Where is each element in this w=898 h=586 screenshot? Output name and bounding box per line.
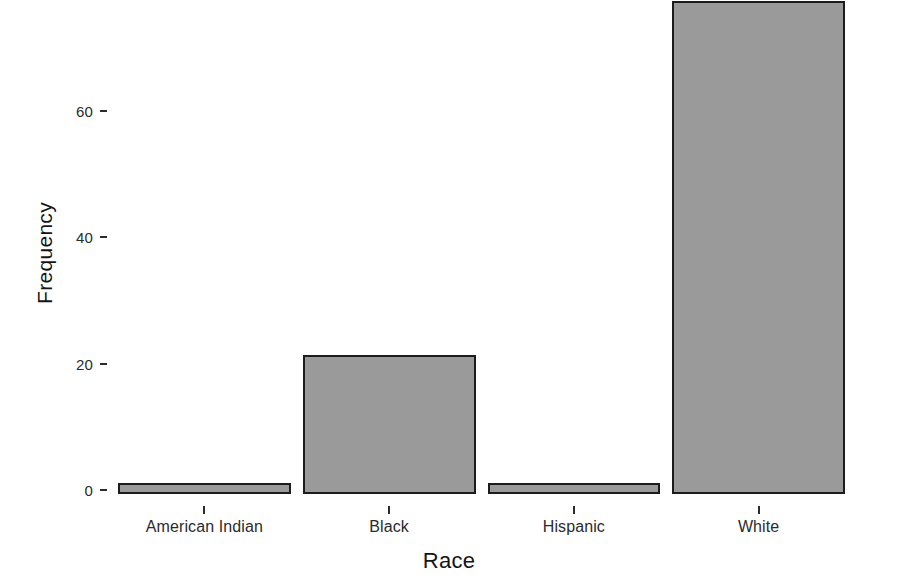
y-axis-title: Frequency bbox=[33, 202, 57, 304]
plot-area bbox=[118, 10, 857, 494]
y-tick-label: 20 bbox=[33, 355, 93, 372]
y-tick-mark bbox=[100, 110, 107, 112]
y-tick-label: 40 bbox=[33, 229, 93, 246]
x-tick-label: American Indian bbox=[146, 518, 263, 536]
x-tick-label: Hispanic bbox=[543, 518, 605, 536]
bar-chart-figure: Frequency 0204060 American IndianBlackHi… bbox=[0, 0, 898, 586]
y-tick-mark bbox=[100, 236, 107, 238]
y-tick-label: 0 bbox=[33, 482, 93, 499]
y-tick-label: 60 bbox=[33, 102, 93, 119]
x-tick-label: White bbox=[738, 518, 779, 536]
bar bbox=[303, 355, 476, 494]
x-axis-title: Race bbox=[423, 548, 476, 574]
bar bbox=[488, 483, 661, 494]
bar bbox=[672, 1, 845, 494]
x-tick-mark bbox=[388, 506, 390, 514]
x-tick-mark bbox=[758, 506, 760, 514]
x-tick-label: Black bbox=[369, 518, 409, 536]
x-tick-mark bbox=[203, 506, 205, 514]
bar bbox=[118, 483, 291, 494]
y-tick-mark bbox=[100, 363, 107, 365]
y-tick-mark bbox=[100, 489, 107, 491]
x-tick-mark bbox=[573, 506, 575, 514]
